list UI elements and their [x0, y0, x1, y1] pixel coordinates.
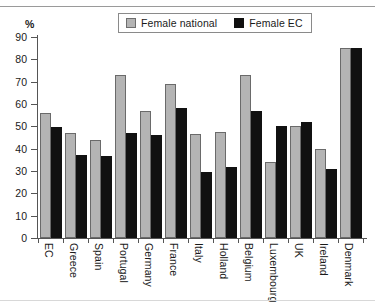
- bar-group: [190, 37, 212, 238]
- x-axis-tick: [88, 238, 89, 243]
- bar-group: [115, 37, 137, 238]
- y-axis-tick: [31, 193, 37, 194]
- x-axis-label-italy: Italy: [193, 243, 205, 263]
- bar-female-ec: [326, 169, 337, 238]
- bar-group: [90, 37, 112, 238]
- y-axis-tick: [31, 59, 37, 60]
- x-axis-label-belgium: Belgium: [243, 243, 255, 282]
- y-axis-tick-label: 10: [3, 211, 27, 221]
- x-axis-tick: [213, 238, 214, 243]
- bar-female-national: [215, 132, 226, 238]
- x-axis-label-holland: Holland: [218, 243, 230, 279]
- bar-female-ec: [301, 122, 312, 238]
- y-axis-tick-label: 0: [3, 233, 27, 243]
- x-axis-label-uk: UK: [293, 243, 305, 258]
- bar-female-national: [115, 75, 126, 238]
- bar-female-ec: [351, 48, 362, 238]
- bar-female-national: [315, 149, 326, 238]
- y-axis-tick: [31, 238, 37, 239]
- x-axis-tick: [113, 238, 114, 243]
- bar-female-national: [90, 140, 101, 238]
- y-axis-tick: [31, 104, 37, 105]
- y-axis-tick-label: 50: [3, 121, 27, 131]
- x-axis-label-france: France: [168, 243, 180, 276]
- bar-group: [265, 37, 287, 238]
- y-axis-tick: [31, 126, 37, 127]
- bar-female-ec: [201, 172, 212, 238]
- y-axis-tick: [31, 82, 37, 83]
- y-axis-tick-label: 60: [3, 99, 27, 109]
- bar-group: [215, 37, 237, 238]
- y-axis-tick-label: 20: [3, 188, 27, 198]
- x-axis-label-portugal: Portugal: [118, 243, 130, 283]
- bar-chart: % 0102030405060708090 ECGreeceSpainPortu…: [0, 0, 375, 304]
- x-axis-tick: [188, 238, 189, 243]
- bar-group: [165, 37, 187, 238]
- x-axis-tick: [163, 238, 164, 243]
- legend-swatch-icon: [234, 18, 244, 28]
- bar-female-national: [240, 75, 251, 238]
- y-axis-tick: [31, 216, 37, 217]
- bar-female-ec: [126, 133, 137, 238]
- bar-female-national: [140, 111, 151, 238]
- y-axis-unit-label: %: [25, 18, 34, 30]
- x-axis-tick: [63, 238, 64, 243]
- bar-female-ec: [276, 126, 287, 238]
- x-axis-label-ireland: Ireland: [318, 243, 330, 276]
- bar-female-national: [265, 162, 276, 238]
- bar-group: [290, 37, 312, 238]
- x-axis-label-denmark: Denmark: [343, 243, 355, 286]
- bar-group: [40, 37, 62, 238]
- y-axis-tick-label: 80: [3, 54, 27, 64]
- y-axis-tick-label: 40: [3, 144, 27, 154]
- bar-female-national: [190, 134, 201, 238]
- y-axis-tick: [31, 171, 37, 172]
- y-axis-tick-label: 70: [3, 77, 27, 87]
- x-axis-label-germany: Germany: [143, 243, 155, 287]
- x-axis-label-greece: Greece: [68, 243, 80, 278]
- bar-female-ec: [51, 127, 62, 238]
- legend-item-national: Female national: [126, 17, 217, 29]
- bar-group: [65, 37, 87, 238]
- legend-label: Female national: [141, 17, 217, 29]
- legend-item-ec: Female EC: [234, 17, 302, 29]
- x-axis-tick: [138, 238, 139, 243]
- x-axis-tick: [363, 238, 364, 243]
- bar-female-ec: [151, 135, 162, 238]
- bottom-divider-rule: [0, 300, 375, 301]
- x-axis-tick: [238, 238, 239, 243]
- x-axis-tick: [313, 238, 314, 243]
- y-axis-tick: [31, 149, 37, 150]
- x-axis-label-luxembourg: Luxembourg: [268, 243, 280, 302]
- bar-female-ec: [226, 167, 237, 238]
- bar-female-ec: [76, 155, 87, 238]
- bar-female-national: [290, 126, 301, 238]
- bar-group: [240, 37, 262, 238]
- bar-female-national: [340, 48, 351, 238]
- bar-group: [315, 37, 337, 238]
- bar-group: [340, 37, 362, 238]
- x-axis-tick: [263, 238, 264, 243]
- bar-female-national: [65, 133, 76, 238]
- bar-female-ec: [176, 108, 187, 238]
- bar-female-national: [40, 113, 51, 238]
- bar-series-container: ECGreeceSpainPortugalGermanyFranceItalyH…: [38, 0, 367, 304]
- x-axis-label-spain: Spain: [93, 243, 105, 270]
- bar-group: [140, 37, 162, 238]
- y-axis-tick: [31, 37, 37, 38]
- legend-label: Female EC: [249, 17, 302, 29]
- x-axis-tick: [38, 238, 39, 243]
- bar-female-ec: [251, 111, 262, 238]
- bar-female-ec: [101, 156, 112, 238]
- y-axis-tick-label: 90: [3, 32, 27, 42]
- x-axis-label-ec: EC: [43, 243, 55, 258]
- bar-female-national: [165, 84, 176, 238]
- y-axis-tick-label: 30: [3, 166, 27, 176]
- legend-swatch-icon: [126, 18, 136, 28]
- x-axis-tick: [338, 238, 339, 243]
- x-axis-tick: [288, 238, 289, 243]
- chart-legend: Female nationalFemale EC: [118, 13, 312, 33]
